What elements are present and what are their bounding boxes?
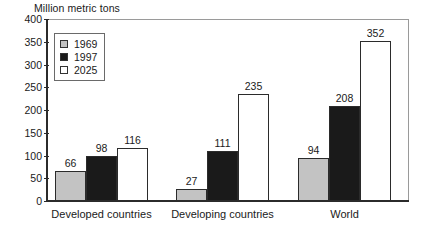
y-axis-label: 250 <box>2 82 42 92</box>
y-axis-label: 50 <box>2 173 42 183</box>
y-axis-label: 200 <box>2 105 42 115</box>
bar-group: 27111235 <box>176 19 269 201</box>
bar-2025-world <box>360 41 391 201</box>
bar-1969-world <box>298 158 329 201</box>
y-axis-label: 0 <box>2 196 42 206</box>
y-axis-label: 300 <box>2 60 42 70</box>
bar-1969-developing-countries <box>176 189 207 201</box>
y-axis-label: 100 <box>2 151 42 161</box>
bar-1997-developed-countries <box>86 156 117 201</box>
y-axis-label: 150 <box>2 128 42 138</box>
bar-1997-world <box>329 106 360 201</box>
bar-chart: Million metric tons 05010015020025030035… <box>0 0 424 243</box>
bar-2025-developed-countries <box>117 148 148 201</box>
y-axis-title: Million metric tons <box>34 2 120 14</box>
bar-2025-developing-countries <box>238 94 269 201</box>
bar-value-label: 352 <box>354 28 397 39</box>
bar-group: 6698116 <box>55 19 148 201</box>
y-axis-label: 400 <box>2 14 42 24</box>
bar-value-label: 116 <box>111 135 154 146</box>
y-axis-tick <box>44 201 49 202</box>
y-axis-label: 350 <box>2 37 42 47</box>
bars-layer: 66981162711123594208352 <box>46 19 409 201</box>
x-axis-label: World <box>258 208 424 220</box>
bar-1969-developed-countries <box>55 171 86 201</box>
bar-value-label: 235 <box>232 81 275 92</box>
bar-group: 94208352 <box>298 19 391 201</box>
bar-1997-developing-countries <box>207 151 238 202</box>
